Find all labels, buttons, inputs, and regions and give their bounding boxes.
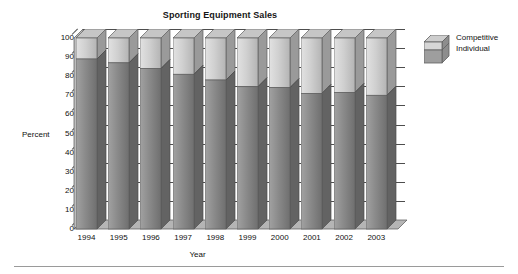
bar-3d-shape <box>205 29 237 231</box>
bar-3d-shape <box>140 29 172 231</box>
bar-column[interactable] <box>366 29 387 229</box>
footer-divider <box>14 266 504 267</box>
bar-column[interactable] <box>237 29 258 229</box>
bar-column[interactable] <box>173 29 194 229</box>
x-tick-label: 2003 <box>356 233 396 242</box>
legend-labels: Competitive Individual <box>456 33 498 54</box>
legend-item-individual: Individual <box>456 44 498 55</box>
chart-figure: Sporting Equipment Sales Percent Year 01… <box>0 0 518 274</box>
cube-icon <box>424 35 450 65</box>
bar-3d-shape <box>334 29 366 231</box>
bar-column[interactable] <box>140 29 161 229</box>
bar-column[interactable] <box>334 29 355 229</box>
bar-3d-shape <box>269 29 301 231</box>
bar-3d-shape <box>237 29 269 231</box>
bar-column[interactable] <box>269 29 290 229</box>
bar-column[interactable] <box>108 29 129 229</box>
legend-swatch-cube <box>424 35 450 65</box>
bar-3d-shape <box>366 29 398 231</box>
bar-column[interactable] <box>205 29 226 229</box>
bar-column[interactable] <box>76 29 97 229</box>
bar-3d-shape <box>301 29 333 231</box>
bar-3d-shape <box>76 29 108 231</box>
legend-item-competitive: Competitive <box>456 33 498 44</box>
bar-3d-shape <box>108 29 140 231</box>
bar-column[interactable] <box>301 29 322 229</box>
bar-3d-shape <box>173 29 205 231</box>
